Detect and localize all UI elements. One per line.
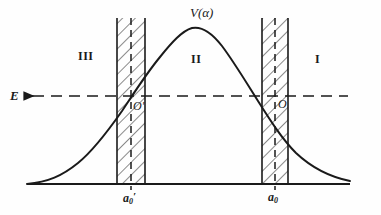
potential-barrier-figure: V(α) III II I E O′ O a0′ a0 [0, 0, 381, 215]
figure-canvas [0, 0, 381, 215]
region-label-III: III [78, 50, 94, 62]
potential-curve-label: V(α) [190, 6, 213, 19]
axis-tick-right-subscript: 0 [274, 196, 278, 205]
energy-level-label: E [10, 89, 19, 102]
region-label-II: II [191, 53, 201, 65]
region-label-I: I [315, 53, 320, 65]
origin-label-left: O′ [133, 100, 144, 112]
axis-tick-left-prime: ′ [133, 190, 136, 202]
potential-energy-curve [27, 28, 350, 184]
origin-label-right: O [278, 98, 287, 110]
axis-tick-label-a0-prime: a0′ [123, 191, 136, 206]
axis-tick-label-a0: a0 [268, 191, 278, 205]
